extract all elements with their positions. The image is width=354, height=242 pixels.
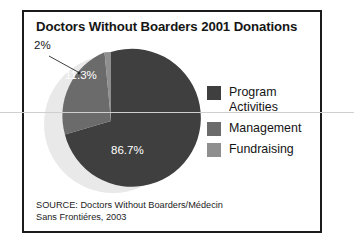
legend-swatch-program-activities bbox=[207, 86, 221, 100]
legend-label-management: Management bbox=[229, 121, 301, 136]
legend: Program Activities Management Fundraisin… bbox=[207, 85, 319, 163]
legend-label-program-activities: Program Activities bbox=[229, 85, 278, 115]
source-note: SOURCE: Doctors Without Boarders/Médecin… bbox=[36, 200, 306, 223]
legend-item-fundraising[interactable]: Fundraising bbox=[207, 142, 319, 157]
slice-label-program-activities: 86.7% bbox=[111, 144, 144, 156]
slice-label-fundraising: 2% bbox=[34, 39, 51, 51]
legend-item-management[interactable]: Management bbox=[207, 121, 319, 136]
legend-item-program-activities[interactable]: Program Activities bbox=[207, 85, 319, 115]
slice-label-management: 11.3% bbox=[65, 69, 97, 81]
chart-figure-frame: Doctors Without Boarders 2001 Donations … bbox=[22, 10, 322, 233]
legend-swatch-management bbox=[207, 122, 221, 136]
legend-label-fundraising: Fundraising bbox=[229, 142, 294, 157]
legend-swatch-fundraising bbox=[207, 143, 221, 157]
pie-slice-management[interactable] bbox=[62, 52, 111, 134]
